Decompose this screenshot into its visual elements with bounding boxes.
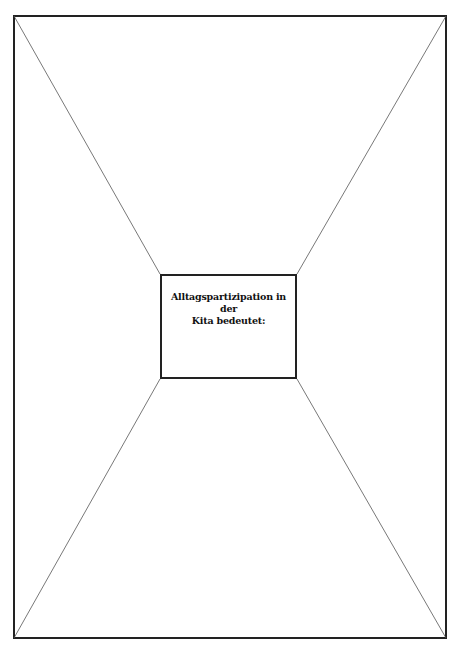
diagonal-bottom-right [297, 379, 446, 638]
diagonal-top-right [297, 16, 446, 274]
prompt-line-1: Alltagspartizipation in der [166, 291, 291, 315]
diagonal-top-left [14, 16, 160, 274]
center-prompt-text: Alltagspartizipation in der Kita bedeute… [162, 291, 295, 327]
center-prompt-box: Alltagspartizipation in der Kita bedeute… [160, 274, 297, 379]
prompt-line-2: Kita bedeutet: [166, 315, 291, 327]
diagonal-bottom-left [14, 379, 160, 638]
worksheet-page: Alltagspartizipation in der Kita bedeute… [0, 0, 460, 649]
